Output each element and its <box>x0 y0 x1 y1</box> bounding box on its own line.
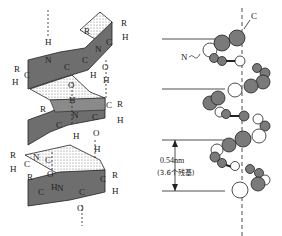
svg-text:H: H <box>94 144 101 154</box>
ribbon-helix-model: H N R H C C C R H N C R H O H O H R C N … <box>10 10 129 226</box>
ball-helix-model: 0.54nm (3.6个残基) C N <box>157 8 270 236</box>
svg-text:C: C <box>38 187 44 197</box>
svg-text:N: N <box>45 55 52 65</box>
c-terminus-label: C <box>251 11 257 21</box>
svg-text:C: C <box>24 159 30 169</box>
svg-text:O: O <box>93 128 100 138</box>
svg-text:H: H <box>112 186 119 196</box>
svg-text:C: C <box>100 174 106 184</box>
svg-text:R: R <box>117 99 123 109</box>
svg-text:H: H <box>73 131 80 141</box>
svg-text:H: H <box>122 32 129 42</box>
svg-text:N: N <box>95 44 102 54</box>
svg-text:C: C <box>56 120 62 130</box>
svg-text:O: O <box>77 203 84 213</box>
n-terminus-label: N <box>181 52 188 62</box>
svg-text:C: C <box>79 187 85 197</box>
svg-text:C: C <box>106 37 112 47</box>
pitch-value-label: 0.54nm <box>160 156 185 165</box>
svg-text:H: H <box>69 95 76 105</box>
svg-text:O: O <box>47 169 54 179</box>
svg-text:O: O <box>102 62 109 72</box>
svg-text:R: R <box>121 18 127 28</box>
svg-text:N: N <box>57 183 64 193</box>
svg-text:C: C <box>82 55 88 65</box>
svg-text:H: H <box>117 115 124 125</box>
svg-text:R: R <box>14 64 20 74</box>
svg-text:R: R <box>84 26 90 36</box>
svg-text:R: R <box>10 150 16 160</box>
svg-text:H: H <box>90 70 97 80</box>
pitch-residues-label: (3.6个残基) <box>157 168 195 177</box>
alpha-helix-diagram: H N R H C C C R H N C R H O H O H R C N … <box>0 0 282 236</box>
svg-text:H: H <box>12 77 19 87</box>
svg-text:N: N <box>72 110 79 120</box>
svg-text:N: N <box>33 152 40 162</box>
svg-text:H: H <box>45 37 52 47</box>
svg-text:C: C <box>24 70 30 80</box>
svg-text:R: R <box>40 104 46 114</box>
svg-text:R: R <box>112 170 118 180</box>
svg-text:H: H <box>10 164 17 174</box>
svg-text:C: C <box>92 112 98 122</box>
svg-text:C: C <box>45 155 51 165</box>
svg-text:H: H <box>103 75 110 85</box>
svg-text:C: C <box>106 100 112 110</box>
svg-text:C: C <box>64 62 70 72</box>
svg-text:O: O <box>68 80 75 90</box>
svg-text:R: R <box>27 172 33 182</box>
